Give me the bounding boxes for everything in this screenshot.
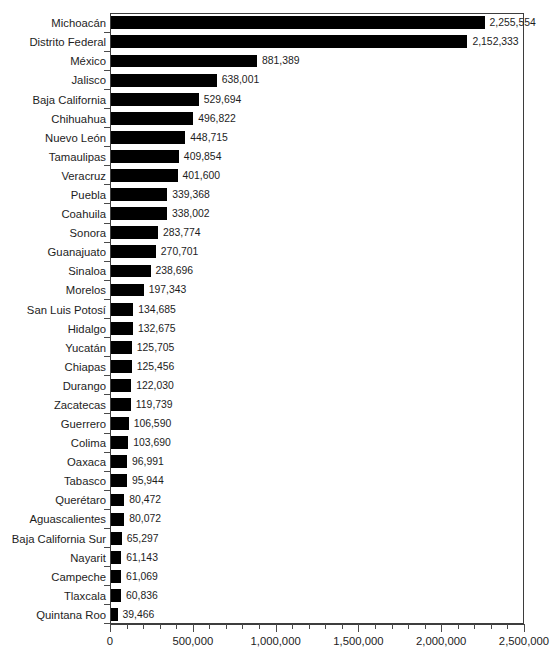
bar-value-label: 65,297 xyxy=(122,529,159,549)
bar xyxy=(111,417,129,430)
category-label: Guerrero xyxy=(0,414,106,434)
bar-row: Sonora283,774 xyxy=(0,223,551,243)
x-axis-minor-tick xyxy=(292,624,293,629)
bar-row: Puebla339,368 xyxy=(0,185,551,205)
category-label: Puebla xyxy=(0,185,106,205)
x-axis-minor-tick xyxy=(127,624,128,629)
category-label: Sinaloa xyxy=(0,261,106,281)
x-axis-major-tick xyxy=(441,624,442,632)
x-axis-minor-tick xyxy=(209,624,210,629)
bar-value-label: 134,685 xyxy=(133,300,176,320)
category-label: Veracruz xyxy=(0,166,106,186)
bar xyxy=(111,474,127,487)
x-axis-tick-label: 1,000,000 xyxy=(250,634,300,648)
bar xyxy=(111,494,124,507)
bar xyxy=(111,169,178,182)
bar xyxy=(111,284,144,297)
category-label: Coahuila xyxy=(0,204,106,224)
bar-value-label: 529,694 xyxy=(199,90,242,110)
bar-value-label: 80,472 xyxy=(124,490,161,510)
bar-value-label: 96,991 xyxy=(127,452,164,472)
bar-row: Nayarit61,143 xyxy=(0,548,551,568)
category-label: Baja California xyxy=(0,90,106,110)
bar-row: Nuevo León448,715 xyxy=(0,128,551,148)
x-axis-minor-tick xyxy=(259,624,260,629)
bar-row: Tabasco95,944 xyxy=(0,471,551,491)
category-label: Nayarit xyxy=(0,548,106,568)
bar-value-label: 283,774 xyxy=(158,223,201,243)
x-axis-minor-tick xyxy=(392,624,393,629)
bar-value-label: 95,944 xyxy=(127,471,164,491)
category-label: Querétaro xyxy=(0,490,106,510)
bar-row: Hidalgo132,675 xyxy=(0,319,551,339)
bar-value-label: 103,690 xyxy=(128,433,171,453)
category-label: Campeche xyxy=(0,567,106,587)
bar-row: Morelos197,343 xyxy=(0,280,551,300)
bar xyxy=(111,74,217,87)
bar xyxy=(111,226,158,239)
bar-value-label: 238,696 xyxy=(151,261,194,281)
bar-value-label: 638,001 xyxy=(217,70,260,90)
category-label: Baja California Sur xyxy=(0,529,106,549)
bar-row: México881,389 xyxy=(0,51,551,71)
category-label: Guanajuato xyxy=(0,242,106,262)
bar-value-label: 125,456 xyxy=(132,357,175,377)
category-label: Chihuahua xyxy=(0,109,106,129)
x-axis-minor-tick xyxy=(425,624,426,629)
bar xyxy=(111,513,124,526)
x-axis-minor-tick xyxy=(242,624,243,629)
bar xyxy=(111,322,133,335)
bar-value-label: 61,069 xyxy=(121,567,158,587)
bar-value-label: 39,466 xyxy=(118,605,155,625)
bar xyxy=(111,16,485,29)
category-label: Durango xyxy=(0,376,106,396)
bar-row: Sinaloa238,696 xyxy=(0,261,551,281)
bar-row: Oaxaca96,991 xyxy=(0,452,551,472)
bar xyxy=(111,112,193,125)
x-axis-minor-tick xyxy=(342,624,343,629)
x-axis-minor-tick xyxy=(160,624,161,629)
bar-value-label: 119,739 xyxy=(131,395,173,415)
bar-value-label: 125,705 xyxy=(132,338,175,358)
category-label: Chiapas xyxy=(0,357,106,377)
category-label: Nuevo León xyxy=(0,128,106,148)
bar-row: Michoacán2,255,554 xyxy=(0,13,551,33)
category-label: Hidalgo xyxy=(0,319,106,339)
bar xyxy=(111,55,257,68)
bar xyxy=(111,265,151,278)
bar-value-label: 106,590 xyxy=(129,414,172,434)
bar-row: Veracruz401,600 xyxy=(0,166,551,186)
bar-row: Quintana Roo39,466 xyxy=(0,605,551,625)
category-label: Yucatán xyxy=(0,338,106,358)
x-axis-minor-tick xyxy=(507,624,508,629)
bar xyxy=(111,245,156,258)
bar xyxy=(111,303,133,316)
bar-value-label: 132,675 xyxy=(133,319,176,339)
bar-row: Querétaro80,472 xyxy=(0,490,551,510)
bar-row: Coahuila338,002 xyxy=(0,204,551,224)
x-axis-minor-tick xyxy=(474,624,475,629)
bar-value-label: 197,343 xyxy=(144,280,187,300)
bar xyxy=(111,532,122,545)
category-label: Aguascalientes xyxy=(0,509,106,529)
bar-value-label: 338,002 xyxy=(167,204,210,224)
bar-value-label: 409,854 xyxy=(179,147,222,167)
bar-value-label: 401,600 xyxy=(178,166,221,186)
bar-row: Yucatán125,705 xyxy=(0,338,551,358)
x-axis-minor-tick xyxy=(226,624,227,629)
category-label: Tamaulipas xyxy=(0,147,106,167)
bar-row: Jalisco638,001 xyxy=(0,70,551,90)
bar xyxy=(111,341,132,354)
category-label: Tlaxcala xyxy=(0,586,106,606)
category-label: Sonora xyxy=(0,223,106,243)
bar-row: Durango122,030 xyxy=(0,376,551,396)
bar-row: Colima103,690 xyxy=(0,433,551,453)
bar-value-label: 2,152,333 xyxy=(467,32,518,52)
category-label: Tabasco xyxy=(0,471,106,491)
bar-value-label: 881,389 xyxy=(257,51,300,71)
x-axis-line xyxy=(110,624,524,625)
bar-row: Guerrero106,590 xyxy=(0,414,551,434)
bar-row: San Luis Potosí134,685 xyxy=(0,300,551,320)
bar-value-label: 61,143 xyxy=(121,548,158,568)
category-label: San Luis Potosí xyxy=(0,300,106,320)
